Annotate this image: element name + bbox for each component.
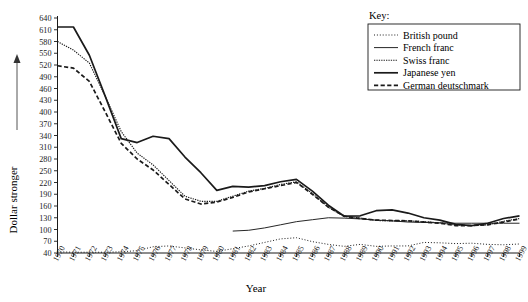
x-tick-label: 1993 bbox=[418, 244, 434, 263]
y-tick-label: 190 bbox=[39, 190, 51, 199]
y-tick-label: 640 bbox=[39, 14, 51, 23]
y-axis-title-group: Dollar stronger bbox=[7, 54, 21, 233]
x-tick-label: 1978 bbox=[179, 244, 195, 263]
x-tick-label: 1985 bbox=[290, 244, 306, 263]
x-tick-label: 1975 bbox=[131, 244, 147, 263]
y-tick-label: 220 bbox=[39, 179, 51, 188]
y-axis-title: Dollar stronger bbox=[7, 166, 19, 233]
y-axis-tick-labels: 6406105805505204904604304003703403102802… bbox=[39, 14, 51, 258]
x-tick-label: 1988 bbox=[338, 244, 354, 263]
y-tick-label: 400 bbox=[39, 108, 51, 117]
legend-label-japanese-yen: Japanese yen bbox=[403, 67, 455, 78]
y-tick-label: 460 bbox=[39, 85, 51, 94]
y-tick-label: 280 bbox=[39, 155, 51, 164]
y-tick-label: 610 bbox=[39, 26, 51, 35]
x-tick-label: 1984 bbox=[274, 244, 290, 263]
legend-label-french-franc: French franc bbox=[403, 42, 454, 53]
x-tick-label: 1995 bbox=[450, 244, 466, 263]
y-tick-label: 130 bbox=[39, 214, 51, 223]
x-tick-label: 1974 bbox=[115, 244, 131, 263]
x-tick-label: 1998 bbox=[497, 244, 513, 263]
y-tick-label: 160 bbox=[39, 202, 51, 211]
y-tick-label: 550 bbox=[39, 49, 51, 58]
y-axis-arrow-head bbox=[14, 54, 21, 63]
y-tick-label: 40 bbox=[43, 249, 51, 258]
x-tick-label: 1970 bbox=[51, 244, 67, 263]
y-tick-label: 430 bbox=[39, 96, 51, 105]
legend-label-british-pound: British pound bbox=[403, 30, 458, 41]
y-tick-label: 100 bbox=[39, 226, 51, 235]
y-tick-label: 490 bbox=[39, 73, 51, 82]
y-tick-label: 250 bbox=[39, 167, 51, 176]
x-axis-tick-labels: 1970197119721973197419751976197719781979… bbox=[51, 244, 528, 263]
x-tick-label: 1991 bbox=[386, 244, 402, 263]
x-tick-label: 1987 bbox=[322, 244, 338, 263]
x-tick-label: 1999 bbox=[513, 244, 528, 263]
x-tick-label: 1971 bbox=[67, 244, 83, 263]
x-tick-label: 1972 bbox=[83, 244, 99, 263]
y-tick-label: 370 bbox=[39, 120, 51, 129]
x-tick-label: 1980 bbox=[211, 244, 227, 263]
x-tick-label: 1986 bbox=[306, 244, 322, 263]
x-tick-label: 1983 bbox=[258, 244, 274, 263]
x-tick-label: 1994 bbox=[434, 244, 450, 263]
y-tick-label: 340 bbox=[39, 132, 51, 141]
x-tick-label: 1989 bbox=[354, 244, 370, 263]
x-tick-label: 1973 bbox=[99, 244, 115, 263]
x-tick-label: 1990 bbox=[370, 244, 386, 263]
y-tick-label: 310 bbox=[39, 143, 51, 152]
y-tick-label: 70 bbox=[43, 237, 51, 246]
legend-label-german-deutschmark: German deutschmark bbox=[403, 80, 489, 91]
x-tick-label: 1979 bbox=[195, 244, 211, 263]
x-tick-label: 1992 bbox=[402, 244, 418, 263]
y-tick-label: 520 bbox=[39, 61, 51, 70]
x-tick-label: 1996 bbox=[466, 244, 482, 263]
y-tick-label: 580 bbox=[39, 38, 51, 47]
x-tick-label: 1997 bbox=[481, 244, 497, 263]
x-tick-label: 1976 bbox=[147, 244, 163, 263]
chart-page: 6406105805505204904604304003703403102802… bbox=[0, 0, 528, 302]
legend-label-swiss-franc: Swiss franc bbox=[403, 55, 450, 66]
y-axis-ticks bbox=[54, 18, 58, 253]
legend-title: Key: bbox=[369, 10, 389, 21]
currency-exchange-line-chart: 6406105805505204904604304003703403102802… bbox=[0, 0, 528, 302]
x-axis-title: Year bbox=[246, 282, 267, 294]
legend: Key: British poundFrench francSwiss fran… bbox=[368, 10, 520, 91]
